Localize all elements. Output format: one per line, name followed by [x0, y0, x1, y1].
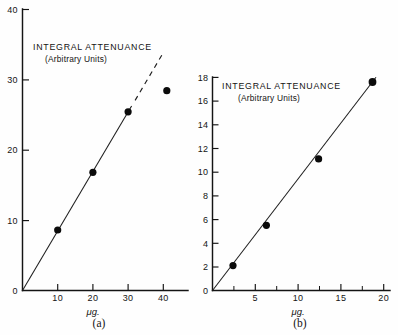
panel-b-xtick-label-5: 5: [253, 293, 258, 303]
panel-b-ytick-label-0: 0: [203, 286, 208, 296]
figure-root: 40 30 20 10 0 10 20 30 40 INTEGRAL ATTEN…: [0, 0, 398, 335]
panel-b-ytick-label-4: 4: [203, 239, 208, 249]
data-point: [89, 169, 96, 176]
panel-b-chart-title: INTEGRAL ATTENUANCE: [222, 81, 341, 91]
figure-canvas: 40 30 20 10 0 10 20 30 40 INTEGRAL ATTEN…: [0, 0, 398, 335]
panel-b-fit-line: [213, 77, 377, 290]
panel-a-fit-line-extension: [135, 53, 163, 101]
data-point: [163, 87, 170, 94]
data-point: [369, 78, 377, 86]
panel-a-xtick-label-30: 30: [123, 293, 134, 303]
panel-b-ytick-label-8: 8: [203, 191, 208, 201]
panel-a-fit-line: [23, 106, 132, 290]
panel-a-xtick-label-20: 20: [87, 293, 98, 303]
panel-b: 18 16 14 12 10 8 6 4 2 0: [198, 73, 390, 330]
panel-b-ytick-label-6: 6: [203, 215, 208, 225]
panel-a-ytick-label-20: 20: [7, 145, 18, 155]
panel-b-y-ticks: [213, 77, 219, 267]
panel-a-xtick-label-10: 10: [52, 293, 63, 303]
panel-b-ytick-label-18: 18: [198, 73, 209, 83]
panel-a-chart-subtitle: (Arbitrary Units): [45, 54, 107, 64]
panel-b-xtick-label-20: 20: [378, 293, 389, 303]
panel-b-chart-subtitle: (Arbitrary Units): [238, 93, 300, 103]
panel-b-ytick-label-12: 12: [198, 144, 209, 154]
panel-b-ytick-label-10: 10: [198, 167, 209, 177]
panel-a: 40 30 20 10 0 10 20 30 40 INTEGRAL ATTEN…: [7, 5, 188, 331]
panel-a-x-ticks: [58, 284, 164, 291]
panel-a-caption: (a): [93, 317, 106, 330]
panel-b-ytick-label-14: 14: [198, 120, 209, 130]
panel-b-xtick-label-10: 10: [293, 293, 304, 303]
data-point: [229, 262, 236, 269]
panel-a-chart-title: INTEGRAL ATTENUANCE: [33, 42, 152, 52]
data-point: [263, 222, 270, 229]
panel-b-x-axis-title: μg.: [290, 306, 304, 317]
panel-b-ytick-label-16: 16: [198, 96, 209, 106]
panel-a-ytick-label-0: 0: [13, 286, 18, 296]
panel-a-ytick-label-10: 10: [7, 216, 18, 226]
panel-a-ytick-label-40: 40: [7, 5, 18, 15]
panel-a-ytick-label-30: 30: [7, 75, 18, 85]
panel-a-y-ticks: [23, 10, 30, 221]
panel-a-data-points: [54, 87, 170, 234]
panel-b-ytick-label-2: 2: [203, 262, 208, 272]
panel-b-xtick-label-15: 15: [335, 293, 346, 303]
panel-b-caption: (b): [293, 317, 307, 330]
data-point: [54, 226, 61, 233]
panel-a-xtick-label-40: 40: [158, 293, 169, 303]
data-point: [125, 108, 132, 115]
panel-a-x-axis-title: μg.: [85, 306, 99, 317]
data-point: [315, 155, 322, 162]
